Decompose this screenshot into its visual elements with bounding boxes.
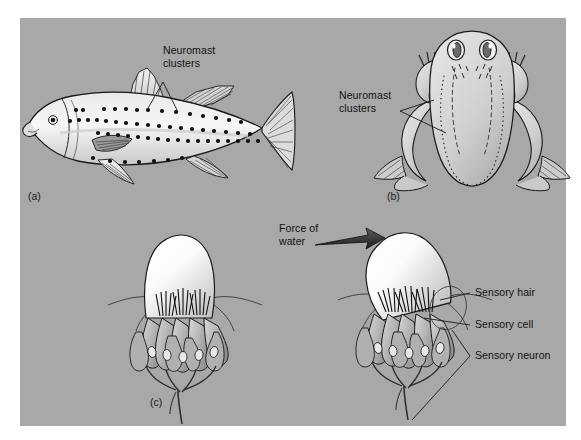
fish-caudal-fin [262,92,295,170]
neuromast-at-rest: (c) [108,235,262,424]
frog-right-eye [480,40,497,60]
figure-root: (a) [0,0,581,440]
neuromast-left-sensory-neuron [146,366,216,424]
fish-neuromast-label: Neuromast clusters [163,44,215,69]
force-of-water-label: Force of water [279,222,318,247]
panel-c-caption: (c) [150,396,162,408]
panel-b-caption: (b) [387,190,400,202]
fish-illustration: (a) [23,68,295,202]
frog-illustration: (b) [374,31,570,202]
frog-body [430,31,515,186]
force-of-water-arrow [315,228,385,249]
neuromast-right-sensory-neuron [372,362,442,420]
frog-neuromast-label: Neuromast clusters [339,89,391,114]
sensory-cell-label: Sensory cell [475,318,533,331]
panel-a-caption: (a) [28,190,41,202]
sensory-neuron-label: Sensory neuron [475,349,551,362]
figure-artwork: (a) [0,0,581,440]
frog-left-eye [448,40,465,60]
neuromast-deflected [338,223,492,420]
fish-eye [49,116,58,125]
sensory-hair-label: Sensory hair [475,286,535,299]
fish-anal-fin [186,156,228,178]
